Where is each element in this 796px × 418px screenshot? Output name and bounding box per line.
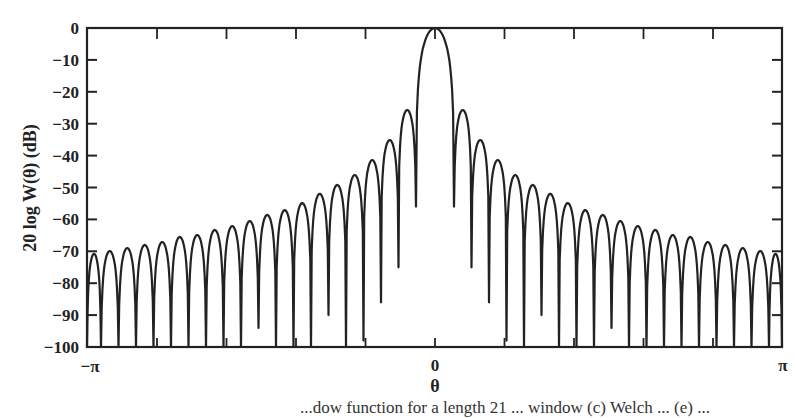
y-axis-label: 20 log W(θ) (dB) [20, 124, 41, 252]
y-tick-label: −10 [52, 51, 79, 70]
spectrum-curve [87, 28, 782, 347]
y-tick-label: −80 [52, 274, 79, 293]
x-tick-label-zero: 0 [431, 356, 440, 375]
x-tick-label-neg-pi: −π [80, 357, 100, 376]
x-axis-label: θ [430, 376, 439, 396]
figure-caption: ...dow function for a length 21 ... wind… [300, 398, 796, 418]
y-tick-label: −30 [52, 115, 79, 134]
y-tick-label: −90 [52, 306, 79, 325]
y-tick-label: −40 [52, 147, 79, 166]
y-tick-labels: 0−10−20−30−40−50−60−70−80−90−100 [44, 19, 79, 357]
y-tick-label: −50 [52, 179, 79, 198]
plot-frame [87, 28, 782, 347]
y-tick-label: −70 [52, 242, 79, 261]
y-tick-label: −20 [52, 83, 79, 102]
y-tick-label: 0 [71, 19, 80, 38]
x-tick-label-pi: π [778, 356, 788, 375]
y-tick-label: −100 [44, 338, 79, 357]
y-axis-ticks [87, 60, 782, 315]
y-tick-label: −60 [52, 210, 79, 229]
